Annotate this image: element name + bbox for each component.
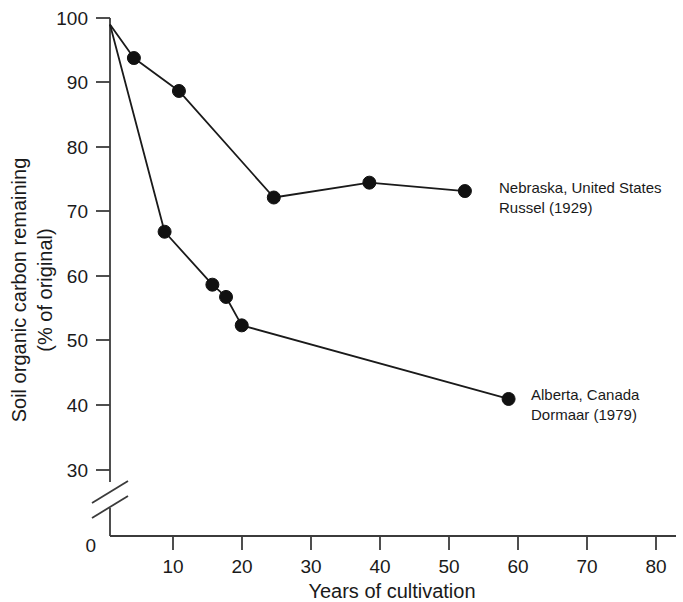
alberta-label-line1: Alberta, Canada xyxy=(531,386,640,403)
data-point xyxy=(220,290,233,303)
x-tick-label-70: 70 xyxy=(576,556,597,577)
series-nebraska xyxy=(110,24,471,204)
y-tick-label-50: 50 xyxy=(67,330,88,351)
y-tick-label-70: 70 xyxy=(67,201,88,222)
y-axis: 100 90 80 70 60 50 40 30 0 xyxy=(56,8,128,556)
x-tick-label-60: 60 xyxy=(507,556,528,577)
y-axis-title: Soil organic carbon remaining (% of orig… xyxy=(8,158,56,423)
y-tick-label-0: 0 xyxy=(85,535,96,556)
y-axis-title-line1: Soil organic carbon remaining xyxy=(8,158,30,423)
chart-container: 100 90 80 70 60 50 40 30 0 10 20 30 40 5… xyxy=(0,0,683,602)
nebraska-label-line2: Russel (1929) xyxy=(499,199,592,216)
y-tick-label-100: 100 xyxy=(56,8,88,29)
y-tick-label-40: 40 xyxy=(67,395,88,416)
series-line xyxy=(110,24,465,197)
nebraska-label-line1: Nebraska, United States xyxy=(499,179,662,196)
data-point xyxy=(172,84,185,97)
x-tick-label-50: 50 xyxy=(438,556,459,577)
data-series-layer xyxy=(110,24,515,405)
series-annotation-nebraska: Nebraska, United States Russel (1929) xyxy=(499,179,662,216)
series-line xyxy=(110,24,509,399)
y-tick-label-60: 60 xyxy=(67,266,88,287)
data-point xyxy=(502,392,515,405)
data-point xyxy=(458,185,471,198)
data-point xyxy=(267,191,280,204)
data-point xyxy=(127,52,140,65)
y-axis-title-line2: (% of original) xyxy=(34,228,56,351)
x-tick-label-80: 80 xyxy=(645,556,666,577)
x-tick-label-20: 20 xyxy=(231,556,252,577)
alberta-label-line2: Dormaar (1979) xyxy=(531,406,637,423)
soil-carbon-line-chart: 100 90 80 70 60 50 40 30 0 10 20 30 40 5… xyxy=(0,0,683,602)
y-tick-label-80: 80 xyxy=(67,137,88,158)
series-annotation-alberta: Alberta, Canada Dormaar (1979) xyxy=(531,386,640,423)
data-point xyxy=(363,176,376,189)
series-alberta xyxy=(110,24,515,405)
data-point xyxy=(158,225,171,238)
data-point xyxy=(235,319,248,332)
x-axis-title: Years of cultivation xyxy=(308,580,475,602)
x-tick-label-30: 30 xyxy=(300,556,321,577)
x-tick-label-10: 10 xyxy=(162,556,183,577)
y-tick-label-30: 30 xyxy=(67,460,88,481)
data-point xyxy=(206,278,219,291)
y-tick-label-90: 90 xyxy=(67,72,88,93)
x-axis: 10 20 30 40 50 60 70 80 Years of cultiva… xyxy=(110,536,676,602)
x-tick-label-40: 40 xyxy=(369,556,390,577)
